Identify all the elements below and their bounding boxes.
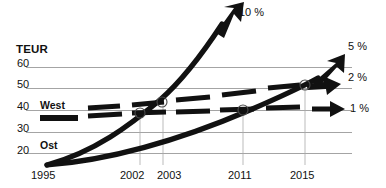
y-axis-unit-label: TEUR	[16, 44, 48, 56]
x-tick-2002: 2002	[120, 170, 144, 181]
y-tick-50: 50	[17, 79, 29, 90]
series-ost-10pct	[47, 2, 244, 165]
y-tick-20: 20	[17, 145, 29, 156]
series-west-1pct	[40, 101, 345, 118]
chart-canvas	[0, 0, 386, 188]
x-tick-1995: 1995	[31, 170, 55, 181]
annotation-5-percent: 5 %	[348, 41, 367, 52]
annotation-10-percent: 10 %	[239, 7, 264, 18]
y-tick-30: 30	[17, 123, 29, 134]
x-tick-2003: 2003	[157, 170, 181, 181]
arrow-1pct	[312, 101, 345, 117]
x-tick-2011: 2011	[228, 170, 252, 181]
annotation-2-percent: 2 %	[348, 72, 367, 83]
annotation-1-percent: 1 %	[350, 103, 369, 114]
y-tick-60: 60	[17, 58, 29, 69]
chart-container: TEUR 60 50 40 30 20 1995 2002 2003 2011 …	[0, 0, 386, 188]
y-tick-40: 40	[17, 101, 29, 112]
series-label-ost: Ost	[40, 140, 58, 151]
series-label-west: West	[40, 100, 65, 111]
x-tick-2015: 2015	[290, 170, 314, 181]
